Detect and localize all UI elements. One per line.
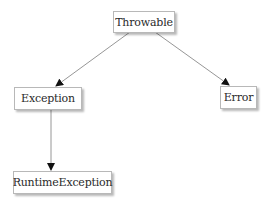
node-throwable[interactable]: Throwable bbox=[113, 11, 175, 33]
edge-throwable-exception bbox=[56, 32, 130, 86]
diagram-canvas: Throwable Exception Error RuntimeExcepti… bbox=[0, 0, 276, 200]
node-exception[interactable]: Exception bbox=[14, 87, 82, 110]
node-throwable-label: Throwable bbox=[115, 16, 173, 29]
node-error[interactable]: Error bbox=[220, 86, 257, 109]
node-runtime-exception[interactable]: RuntimeException bbox=[13, 171, 112, 194]
node-runtime-exception-label: RuntimeException bbox=[13, 176, 113, 189]
node-exception-label: Exception bbox=[21, 92, 75, 105]
node-error-label: Error bbox=[224, 91, 253, 104]
edge-throwable-error bbox=[155, 32, 229, 85]
